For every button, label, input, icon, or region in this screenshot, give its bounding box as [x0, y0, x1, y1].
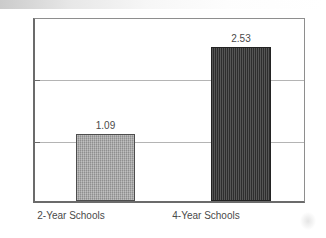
y-tick-mark-2: [35, 80, 40, 81]
bar-value-label-4-year-schools: 2.53: [211, 33, 271, 44]
scan-artifact-top: [0, 0, 326, 9]
plot-area: 1.09 2.53: [33, 18, 305, 203]
x-axis-category-label-2-year-schools: 2-Year Schools: [34, 210, 108, 222]
y-tick-mark-1: [35, 142, 40, 143]
scan-artifact-corner: [300, 212, 316, 230]
bar-value-label-2-year-schools: 1.09: [76, 120, 135, 131]
x-axis-category-label-4-year-schools: 4-Year Schools: [169, 210, 243, 222]
bar-2-year-schools[interactable]: [76, 134, 135, 201]
bar-4-year-schools[interactable]: [211, 47, 271, 201]
bar-chart-figure: 3 2 1 0 1.09 2.53 2-Year Schools 4-Year …: [0, 0, 326, 238]
